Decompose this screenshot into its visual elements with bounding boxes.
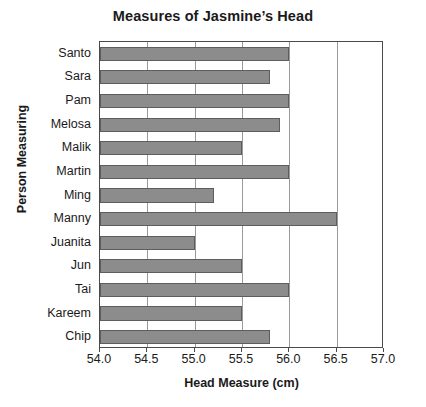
bar bbox=[100, 306, 242, 320]
bar bbox=[100, 118, 280, 132]
bar-row bbox=[100, 330, 382, 344]
y-axis-tick-label: Martin bbox=[56, 164, 91, 178]
x-axis-tick-labels: 54.054.555.055.556.056.557.0 bbox=[99, 352, 383, 372]
x-axis-tick-label: 55.5 bbox=[217, 352, 265, 366]
y-axis-tick-label: Pam bbox=[65, 93, 91, 107]
x-axis-label: Head Measure (cm) bbox=[99, 376, 384, 390]
bar-row bbox=[100, 236, 382, 250]
x-axis-tick-label: 56.0 bbox=[264, 352, 312, 366]
x-axis-tick-label: 54.0 bbox=[75, 352, 123, 366]
bar bbox=[100, 165, 289, 179]
bar-row bbox=[100, 141, 382, 155]
bar bbox=[100, 70, 270, 84]
y-axis-tick-label: Chip bbox=[65, 329, 91, 343]
x-axis-tick-label: 56.5 bbox=[312, 352, 360, 366]
bar bbox=[100, 259, 242, 273]
y-axis-tick-labels: SantoSaraPamMelosaMalikMartinMingMannyJu… bbox=[20, 41, 95, 348]
bar bbox=[100, 188, 214, 202]
y-axis-tick-label: Ming bbox=[64, 188, 91, 202]
bar-row bbox=[100, 47, 382, 61]
bar bbox=[100, 236, 195, 250]
bar bbox=[100, 283, 289, 297]
bar-row bbox=[100, 283, 382, 297]
bar bbox=[100, 330, 270, 344]
bar bbox=[100, 47, 289, 61]
bar-row bbox=[100, 259, 382, 273]
y-axis-tick-label: Jun bbox=[71, 258, 91, 272]
x-axis-tick-label: 57.0 bbox=[359, 352, 407, 366]
bar-row bbox=[100, 306, 382, 320]
x-axis-tick-label: 55.0 bbox=[170, 352, 218, 366]
bar bbox=[100, 141, 242, 155]
bar-row bbox=[100, 188, 382, 202]
chart-title: Measures of Jasmine’s Head bbox=[0, 8, 426, 24]
y-axis-tick-label: Kareem bbox=[47, 306, 91, 320]
y-axis-tick-label: Tai bbox=[75, 282, 91, 296]
bar-row bbox=[100, 118, 382, 132]
bar-series bbox=[100, 42, 382, 347]
y-axis-tick-label: Sara bbox=[65, 69, 91, 83]
y-axis-tick-label: Melosa bbox=[51, 117, 91, 131]
x-axis-tick-label: 54.5 bbox=[122, 352, 170, 366]
bar-row bbox=[100, 70, 382, 84]
bar-chart: Measures of Jasmine’s Head Person Measur… bbox=[0, 0, 426, 407]
plot-area bbox=[99, 41, 383, 348]
y-axis-tick-label: Malik bbox=[62, 140, 91, 154]
y-axis-tick-label: Santo bbox=[58, 46, 91, 60]
y-axis-tick-label: Manny bbox=[53, 211, 91, 225]
bar bbox=[100, 212, 337, 226]
y-axis-tick-label: Juanita bbox=[51, 235, 91, 249]
bar-row bbox=[100, 94, 382, 108]
bar bbox=[100, 94, 289, 108]
bar-row bbox=[100, 212, 382, 226]
bar-row bbox=[100, 165, 382, 179]
